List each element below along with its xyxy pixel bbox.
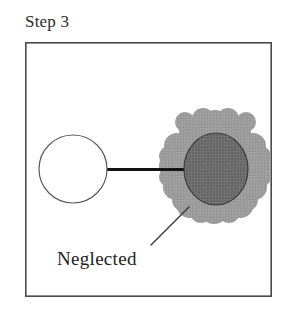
step-diagram: Step 3: [0, 0, 287, 311]
callout-label: Neglected: [57, 248, 137, 269]
page-title: Step 3: [25, 12, 69, 31]
neglected-node[interactable]: [184, 133, 248, 205]
clean-node[interactable]: [39, 135, 107, 203]
figure-canvas: Step 3: [0, 0, 287, 311]
